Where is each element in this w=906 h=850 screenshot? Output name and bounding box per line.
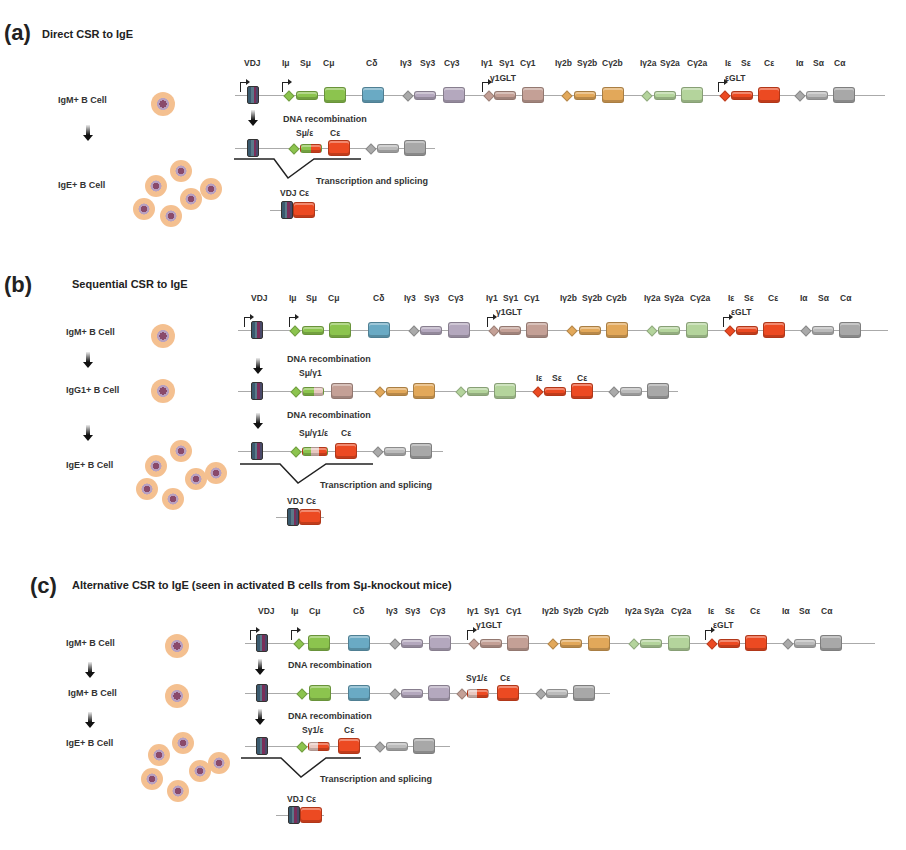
recomb-label: Sμ/ε	[296, 128, 313, 138]
step-dna-recombination: DNA recombination	[288, 660, 372, 670]
igm-b-cell-icon	[165, 634, 189, 658]
g1-glt-label: γ1GLT	[490, 73, 516, 83]
cell-label-igg1: IgG1+ B Cell	[66, 385, 119, 395]
g1-glt-label: γ1GLT	[476, 620, 502, 630]
recomb-label: Sμ/γ1/ε	[299, 428, 328, 438]
recomb-label: Sγ1/ε	[302, 725, 324, 735]
product-label: VDJ Cε	[287, 794, 316, 804]
down-arrow-icon	[88, 712, 92, 722]
step-dna-recombination: DNA recombination	[288, 711, 372, 721]
recomb-label: Cε	[577, 373, 587, 383]
panel-b-letter: (b)	[4, 272, 32, 298]
product-label: VDJ Cε	[280, 188, 309, 198]
step-transcription-splicing: Transcription and splicing	[316, 176, 428, 186]
down-arrow-icon	[86, 352, 90, 362]
cell-label-ige: IgE+ B Cell	[58, 180, 105, 190]
recomb-label: Cε	[344, 725, 354, 735]
eps-glt-label: εGLT	[713, 620, 733, 630]
recomb-label: Sγ1/ε	[466, 673, 488, 683]
down-arrow-icon	[256, 358, 260, 368]
recomb-label: Iε	[536, 373, 542, 383]
igm-b-cell-icon	[151, 92, 175, 116]
down-arrow-icon	[86, 425, 90, 435]
recomb-label: Cε	[330, 128, 340, 138]
down-arrow-icon	[251, 110, 255, 120]
step-transcription-splicing: Transcription and splicing	[320, 774, 432, 784]
down-arrow-icon	[86, 125, 90, 135]
eps-glt-label: εGLT	[731, 307, 751, 317]
down-arrow-icon	[88, 662, 92, 672]
step-dna-recombination: DNA recombination	[287, 354, 371, 364]
g1-glt-label: γ1GLT	[496, 307, 522, 317]
eps-glt-label: εGLT	[725, 73, 745, 83]
panel-a-letter: (a)	[4, 20, 31, 46]
down-arrow-icon	[258, 659, 262, 669]
product-label: VDJ Cε	[287, 496, 316, 506]
step-dna-recombination: DNA recombination	[287, 410, 371, 420]
panel-c-title: Alternative CSR to IgE (seen in activate…	[72, 579, 452, 591]
cell-label-igm: IgM+ B Cell	[58, 95, 107, 105]
igm-b-cell-icon	[151, 324, 175, 348]
step-transcription-splicing: Transcription and splicing	[320, 480, 432, 490]
down-arrow-icon	[256, 413, 260, 423]
down-arrow-icon	[258, 709, 262, 719]
recomb-label: Cε	[341, 428, 351, 438]
panel-b-title: Sequential CSR to IgE	[72, 278, 188, 290]
panel-a-title: Direct CSR to IgE	[42, 28, 133, 40]
igm-b-cell-icon	[165, 684, 189, 708]
cell-label-igm: IgM+ B Cell	[66, 638, 115, 648]
recomb-label: Cε	[500, 673, 510, 683]
panel-c-letter: (c)	[30, 573, 57, 599]
step-dna-recombination: DNA recombination	[283, 114, 367, 124]
recomb-label: Sε	[552, 373, 562, 383]
recomb-label: Sμ/γ1	[299, 368, 322, 378]
cell-label-ige: IgE+ B Cell	[66, 738, 113, 748]
cell-label-igm: IgM+ B Cell	[66, 327, 115, 337]
cell-label-igm-2: IgM+ B Cell	[68, 688, 117, 698]
cell-label-ige: IgE+ B Cell	[66, 460, 113, 470]
igg1-b-cell-icon	[151, 379, 175, 403]
